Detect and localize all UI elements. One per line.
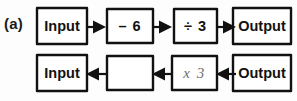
bottom-row-flow: Inputx 3Output [0,53,297,97]
top-row-arrow-1-right-arrow-icon [86,20,106,34]
top-row-box-minus-six-label: – 6 [118,19,141,34]
wavy-border-icon [105,54,155,92]
top-row-box-minus-six[interactable]: – 6 [105,7,155,45]
bottom-row-box-output[interactable]: Output [231,53,293,93]
top-row-box-output-label: Output [238,19,286,34]
bottom-row-box-times-three[interactable]: x 3 [170,54,219,92]
top-row-box-input-label: Input [44,19,79,34]
bottom-row-box-input[interactable]: Input [35,53,89,93]
top-row-box-input[interactable]: Input [35,6,89,46]
bottom-row-arrow-3-left-arrow-icon [216,67,236,81]
bottom-row-box-blank-answer[interactable] [105,54,155,92]
bottom-row-arrow-1-left-arrow-icon [86,67,106,81]
bottom-row-arrow-2-left-arrow-icon [152,67,172,81]
bottom-row-box-times-three-label: x 3 [183,66,205,81]
top-row-box-divide-three[interactable]: ÷ 3 [172,7,219,45]
top-row-arrow-2-right-arrow-icon [152,20,172,34]
top-row-flow: Input– 6÷ 3Output [0,6,297,50]
top-row-box-divide-three-label: ÷ 3 [184,19,207,34]
function-machine-figure: (a) Input– 6÷ 3Output Inputx 3Output [0,0,297,101]
bottom-row-box-output-label: Output [238,66,286,81]
bottom-row-box-input-label: Input [44,66,79,81]
top-row-box-output[interactable]: Output [231,6,293,46]
top-row-arrow-3-right-arrow-icon [216,20,236,34]
